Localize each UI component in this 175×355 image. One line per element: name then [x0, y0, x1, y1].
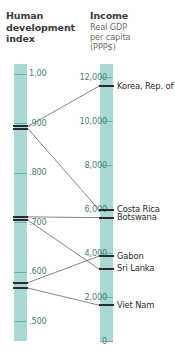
hdi-tick-900 [14, 123, 27, 124]
chart-root: Human development index Income Real GDP … [0, 0, 175, 355]
hdi-tick-800 [14, 173, 27, 174]
hdi-mark-botswana [13, 216, 28, 218]
country-label-sri-lanka: Sri Lanka [117, 263, 154, 273]
hdi-tick-label-800: .800 [29, 167, 46, 177]
link-line-sri-lanka [28, 220, 99, 269]
country-label-gabon: Gabon [117, 251, 144, 261]
income-mark-gabon [99, 255, 114, 257]
income-tick-label-2000: 2,000 [85, 292, 107, 302]
income-mark-costa-rica [99, 209, 114, 211]
income-mark-viet-nam [99, 304, 114, 306]
hdi-tick-500 [14, 321, 27, 322]
hdi-tick-label-700: .700 [29, 217, 46, 227]
income-tick-label-0: 0 [102, 336, 107, 346]
income-mark-botswana [99, 217, 114, 219]
hdi-tick-label-900: .900 [29, 118, 46, 128]
income-mark-sri-lanka [99, 268, 114, 270]
hdi-tick-label-500: .500 [29, 316, 46, 326]
income-tick-label-8000: 8,000 [85, 160, 107, 170]
country-label-botswana: Botswana [117, 212, 157, 222]
country-label-viet-nam: Viet Nam [117, 300, 154, 310]
country-label-korea-rep-of: Korea, Rep. of [117, 81, 173, 91]
hdi-tick-label-600: .600 [29, 266, 46, 276]
hdi-tick-label-100: 1.00 [29, 68, 46, 78]
hdi-mark-viet-nam [13, 287, 28, 289]
income-mark-korea-rep-of [99, 85, 114, 87]
income-tick-label-10000: 10,000 [80, 116, 107, 126]
income-tick-label-12000: 12,000 [80, 72, 107, 82]
hdi-mark-costa-rica [13, 128, 28, 130]
hdi-tick-100 [14, 74, 27, 75]
hdi-mark-gabon [13, 282, 28, 284]
hdi-tick-600 [14, 272, 27, 273]
hdi-tick-700 [14, 222, 27, 223]
hdi-mark-sri-lanka [13, 219, 28, 221]
